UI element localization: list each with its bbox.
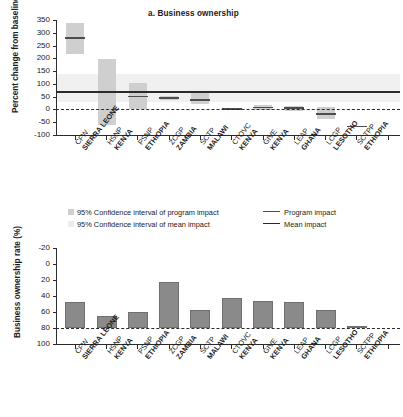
bar [316,310,336,328]
y-tick-label: 100 [20,79,50,88]
y-tick-mark [53,312,56,313]
y-tick-label: 350 [20,15,50,24]
x-tick-label: HSNPKENYA [105,121,134,152]
ci-box [191,92,209,104]
y-tick-mark [53,109,56,110]
y-tick-label: 100 [20,339,50,348]
legend-label-mean-impact: Mean impact [284,220,326,229]
mean-impact-line [56,91,400,92]
y-tick-label: 40 [20,291,50,300]
y-tick-mark [53,122,56,123]
legend-label-ci-mean: 95% Confidence interval of mean impact [77,220,210,229]
y-tick-label: 200 [20,53,50,62]
x-tick-label: LEAPGHANA [292,329,323,361]
legend-row-mean-impact: Mean impact [263,219,326,229]
x-tick-label: LEAPGHANA [292,120,323,152]
x-tick-mark [388,345,389,349]
panel-a-y-axis [56,20,57,136]
x-tick-label: PSNPETHIOPIA [136,114,171,152]
legend-label-program-impact: Program impact [284,208,336,217]
y-tick-mark [53,328,56,329]
bar [222,298,242,328]
legend-swatch-ci-mean [68,221,74,227]
x-tick-label: CTOVCKENYA [230,121,260,152]
y-tick-mark [53,20,56,21]
y-tick-mark [53,296,56,297]
y-tick-mark [53,248,56,249]
y-tick-label: 300 [20,28,50,37]
program-impact-line [159,97,179,99]
program-impact-line [316,113,336,115]
legend-row-mean: 95% Confidence interval of mean impact [68,219,210,229]
bar [190,310,210,328]
legend-label-ci-program: 95% Confidence interval of program impac… [77,208,219,217]
bar [159,282,179,328]
y-tick-label: 0 [20,104,50,113]
x-tick-label: GIVEKENYA [261,121,290,152]
program-impact-line [65,37,85,39]
y-tick-mark [53,135,56,136]
y-tick-mark [53,264,56,265]
panel-a-y-axis-label-line2: baseline [11,0,20,29]
y-tick-label: -100 [20,130,50,139]
y-tick-mark [53,58,56,59]
y-tick-label: 0 [20,259,50,268]
y-tick-label: 50 [20,92,50,101]
y-tick-label: 80 [20,323,50,332]
y-tick-label: 250 [20,41,50,50]
x-tick-label: CTOVCKENYA [230,330,260,361]
bar [284,302,304,328]
panel-a-title: a. Business ownership [148,9,239,18]
y-tick-mark [53,46,56,47]
y-tick-label: 150 [20,66,50,75]
x-tick-label: ZCGPZAMBIA [167,328,199,361]
y-tick-label: 60 [20,307,50,316]
program-impact-line [128,96,148,98]
panel-b-plot-area: -20020406080100CFWSIERRA LEONEHSNPKENYAP… [56,248,400,344]
x-tick-mark [388,136,389,140]
panel-a-plot-area: -100-50050100150200250300350CFWSIERRA LE… [56,20,400,135]
legend-swatch-ci-program [68,209,74,215]
y-tick-mark [53,280,56,281]
legend-swatch-mean-impact-line [263,223,280,224]
panel-a-y-axis-label-line1: Percent change from [11,32,20,113]
x-tick-label: GIVEKENYA [261,330,290,361]
program-impact-line [253,107,273,109]
y-tick-mark [53,84,56,85]
y-tick-mark [53,33,56,34]
bar [128,312,148,328]
x-tick-label: ZCGPZAMBIA [167,119,199,152]
program-impact-line [190,99,210,101]
legend-swatch-program-impact-line [263,211,280,212]
legend-row-program-impact: Program impact [263,207,336,217]
figure-business-ownership: a. Business ownership Percent change fro… [0,0,403,417]
x-tick-label: HSNPKENYA [105,330,134,361]
y-tick-label: -50 [20,117,50,126]
y-tick-mark [53,71,56,72]
y-tick-label: -20 [20,243,50,252]
legend-row-program: 95% Confidence interval of program impac… [68,207,219,217]
panel-b-y-axis [56,248,57,345]
y-tick-mark [53,344,56,345]
bar [253,301,273,328]
y-tick-label: 20 [20,275,50,284]
x-tick-label: SCTPPETHIOPIA [355,114,390,152]
bar [65,302,85,328]
y-tick-mark [53,97,56,98]
